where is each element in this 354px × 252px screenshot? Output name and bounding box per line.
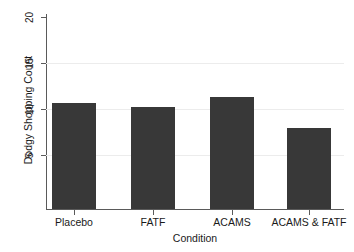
bar-fatf xyxy=(131,107,175,209)
bar-acams xyxy=(210,97,254,209)
x-tick-mark-placebo xyxy=(74,210,75,215)
bar-chart: Dodgy Shopping Count 20 15 10 5 Placebo … xyxy=(0,0,354,252)
y-tick-label-15: 15 xyxy=(24,51,35,77)
y-tick-label-5: 5 xyxy=(24,143,35,169)
x-axis-title: Condition xyxy=(46,232,344,244)
x-tick-mark-acams-fatf xyxy=(309,210,310,215)
bar-acams-fatf xyxy=(287,128,331,209)
gridline-15 xyxy=(46,63,344,64)
x-tick-label-placebo: Placebo xyxy=(34,216,114,228)
x-tick-label-fatf: FATF xyxy=(113,216,193,228)
bar-placebo xyxy=(52,103,96,209)
y-tick-label-20: 20 xyxy=(24,5,35,31)
x-axis-line xyxy=(46,209,344,210)
y-tick-label-10: 10 xyxy=(24,97,35,123)
x-tick-mark-fatf xyxy=(153,210,154,215)
plot-area xyxy=(46,14,344,209)
x-tick-label-acams-fatf: ACAMS & FATF xyxy=(259,216,354,228)
x-tick-mark-acams xyxy=(232,210,233,215)
